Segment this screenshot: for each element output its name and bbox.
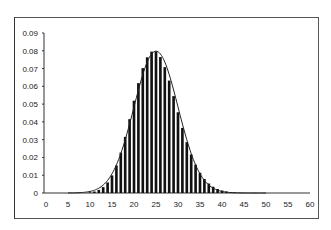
- x-tick-label: 55: [284, 200, 293, 209]
- histogram-bar: [124, 137, 127, 193]
- x-tick-label: 5: [66, 200, 71, 209]
- histogram-bar: [102, 187, 105, 193]
- histogram-bar: [141, 68, 144, 193]
- histogram-bar: [106, 182, 109, 193]
- histogram-chart: 00.010.020.030.040.050.060.070.080.09051…: [0, 0, 331, 230]
- histogram-bar: [194, 165, 197, 193]
- y-tick-label: 0.08: [22, 47, 38, 56]
- x-tick-label: 50: [262, 200, 271, 209]
- histogram-bar: [93, 192, 96, 193]
- x-tick-label: 0: [44, 200, 49, 209]
- histogram-bar: [163, 67, 166, 193]
- y-tick-label: 0.09: [22, 29, 38, 38]
- y-tick-label: 0.01: [22, 171, 38, 180]
- x-tick-label: 25: [152, 200, 161, 209]
- histogram-bar: [146, 57, 149, 193]
- histogram-bar: [150, 52, 153, 193]
- histogram-bar: [172, 96, 175, 193]
- histogram-bar: [155, 52, 158, 193]
- x-tick-label: 30: [174, 200, 183, 209]
- y-tick-label: 0: [34, 189, 39, 198]
- histogram-bar: [89, 192, 92, 193]
- x-tick-label: 40: [218, 200, 227, 209]
- y-tick-label: 0.05: [22, 100, 38, 109]
- y-tick-label: 0.04: [22, 118, 38, 127]
- histogram-bar: [181, 128, 184, 193]
- x-tick-label: 15: [108, 200, 117, 209]
- histogram-bar: [111, 175, 114, 193]
- y-tick-label: 0.02: [22, 153, 38, 162]
- histogram-bar: [177, 112, 180, 193]
- x-tick-label: 10: [86, 200, 95, 209]
- y-tick-label: 0.03: [22, 136, 38, 145]
- x-tick-label: 60: [306, 200, 315, 209]
- histogram-bar: [185, 142, 188, 193]
- histogram-bar: [159, 57, 162, 193]
- x-tick-label: 20: [130, 200, 139, 209]
- histogram-bar: [128, 119, 131, 193]
- histogram-bar: [190, 154, 193, 193]
- y-tick-label: 0.07: [22, 65, 38, 74]
- y-tick-label: 0.06: [22, 82, 38, 91]
- histogram-bar: [119, 153, 122, 193]
- histogram-bar: [137, 83, 140, 193]
- x-tick-label: 35: [196, 200, 205, 209]
- histogram-bar: [115, 166, 118, 193]
- histogram-bar: [168, 81, 171, 193]
- histogram-bar: [133, 101, 136, 193]
- fitted-curve: [68, 51, 266, 193]
- x-tick-label: 45: [240, 200, 249, 209]
- histogram-bar: [97, 190, 100, 193]
